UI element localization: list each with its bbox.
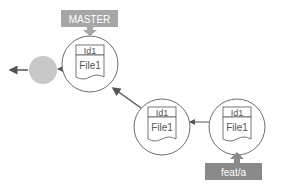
commit-graph-diagram: MASTER Id1 File1 Id1 File1 Id1 File1 <box>0 0 290 186</box>
edge-commit2-commit1 <box>113 88 141 108</box>
master-pointer-arrow <box>83 27 97 36</box>
branch-label-master-text: MASTER <box>69 14 111 25</box>
ancestor-commit-node <box>29 56 57 84</box>
branch-label-feat-a: feat/a <box>205 163 262 180</box>
branch-label-master: MASTER <box>61 10 118 27</box>
commit-file: File1 <box>79 60 101 71</box>
commit-node-2: Id1 File1 <box>134 99 190 155</box>
commit-id: Id1 <box>231 108 244 118</box>
commit-id: Id1 <box>156 108 169 118</box>
branch-label-feat-a-text: feat/a <box>221 167 246 178</box>
commit-id: Id1 <box>84 46 97 56</box>
commit-node-3: Id1 File1 <box>209 99 265 155</box>
commit-node-1: Id1 File1 <box>62 36 118 92</box>
commit-file: File1 <box>151 122 173 133</box>
commit-file: File1 <box>226 122 248 133</box>
